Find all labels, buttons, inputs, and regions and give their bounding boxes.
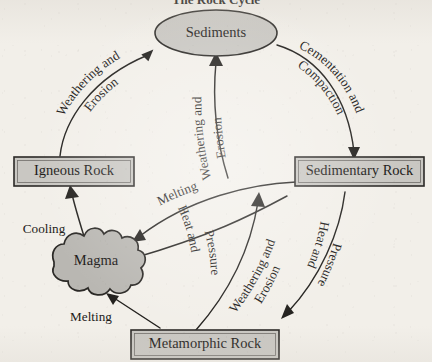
rock-cycle-diagram: The Rock Cycle [0, 0, 432, 362]
edge-label-heat-pressure-center-line1: Heat and [175, 203, 203, 254]
node-sediments: Sediments [155, 10, 277, 56]
arrow-center-to-sediments [209, 52, 228, 178]
edge-label-melting-upper: Melting [154, 178, 199, 208]
node-magma: Magma [53, 228, 146, 295]
page-title: The Rock Cycle [172, 0, 260, 7]
node-sedimentary-rock: Sedimentary Rock [295, 157, 424, 186]
node-igneous-rock-label: Igneous Rock [34, 162, 115, 178]
node-metamorphic-rock: Metamorphic Rock [131, 330, 279, 359]
edge-label-weathering-erosion-center-line2: Erosion [209, 116, 229, 159]
edge-label-weathering-erosion-center-line1: Weathering and [189, 96, 214, 181]
node-magma-label: Magma [74, 252, 119, 268]
node-metamorphic-rock-label: Metamorphic Rock [149, 335, 262, 351]
node-sedimentary-rock-label: Sedimentary Rock [306, 162, 414, 178]
node-sediments-label: Sediments [186, 24, 247, 40]
edge-label-melting-lower: Melting [70, 309, 112, 324]
edge-label-heat-pressure-center-line2: Pressure [202, 228, 224, 275]
diagram-canvas: The Rock Cycle [0, 0, 432, 362]
arrow-metamorphic-to-magma [106, 293, 160, 328]
edge-label-cooling: Cooling [23, 221, 66, 236]
node-igneous-rock: Igneous Rock [14, 157, 134, 186]
